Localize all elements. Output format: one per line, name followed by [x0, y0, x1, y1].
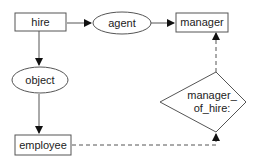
node-object[interactable]: object: [12, 67, 68, 93]
node-hire-label: hire: [31, 16, 49, 28]
node-hire[interactable]: hire: [15, 13, 66, 31]
edge-employee-manager-of-hire: [72, 134, 216, 145]
node-manager-of-hire-label-line2: of_hire:: [194, 102, 231, 114]
node-object-label: object: [25, 74, 54, 86]
node-manager-of-hire-label-line1: manager_: [187, 89, 237, 101]
node-manager-label: manager: [180, 16, 224, 28]
node-employee[interactable]: employee: [15, 135, 71, 155]
diagram-canvas: hire agent manager object employee manag…: [0, 0, 256, 161]
node-agent-label: agent: [108, 17, 136, 29]
node-agent[interactable]: agent: [93, 12, 151, 34]
node-employee-label: employee: [19, 139, 67, 151]
node-manager-of-hire[interactable]: manager_ of_hire:: [160, 72, 246, 132]
node-manager[interactable]: manager: [176, 13, 228, 32]
